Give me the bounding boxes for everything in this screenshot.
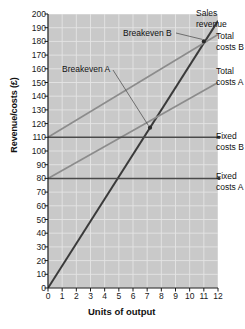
y-tick-170: 170 xyxy=(20,51,46,59)
x-axis-title: Units of output xyxy=(88,306,218,317)
y-tick-80: 80 xyxy=(20,174,46,182)
y-tick-140: 140 xyxy=(20,92,46,100)
y-tick-110: 110 xyxy=(20,133,46,141)
label-fixed-costs-a: Fixed costs A xyxy=(216,171,243,192)
y-tick-20: 20 xyxy=(20,257,46,265)
y-tick-150: 150 xyxy=(20,79,46,87)
y-axis-title: Revenue/costs (£) xyxy=(9,55,19,175)
y-tick-60: 60 xyxy=(20,202,46,210)
label-breakeven-b: Breakeven B xyxy=(123,28,172,39)
y-tick-130: 130 xyxy=(20,106,46,114)
y-tick-30: 30 xyxy=(20,243,46,251)
y-tick-120: 120 xyxy=(20,120,46,128)
y-tick-90: 90 xyxy=(20,161,46,169)
y-tick-40: 40 xyxy=(20,229,46,237)
y-tick-100: 100 xyxy=(20,147,46,155)
y-tick-180: 180 xyxy=(20,37,46,45)
y-tick-160: 160 xyxy=(20,65,46,73)
y-tick-50: 50 xyxy=(20,216,46,224)
x-axis-tick-labels: 0123456789101112 xyxy=(0,291,245,305)
y-tick-10: 10 xyxy=(20,270,46,278)
y-tick-70: 70 xyxy=(20,188,46,196)
label-breakeven-a: Breakeven A xyxy=(62,64,110,75)
x-tick-12: 12 xyxy=(210,291,226,301)
label-total-costs-b: Total costs B xyxy=(216,31,244,52)
y-tick-200: 200 xyxy=(20,10,46,18)
breakeven-chart: 0102030405060708090100110120130140150160… xyxy=(0,0,245,329)
label-fixed-costs-b: Fixed costs B xyxy=(216,131,244,152)
y-tick-190: 190 xyxy=(20,24,46,32)
label-sales-revenue: Sales revenue xyxy=(196,8,227,29)
label-total-costs-a: Total costs A xyxy=(216,66,243,87)
y-axis-tick-labels: 0102030405060708090100110120130140150160… xyxy=(16,0,46,329)
